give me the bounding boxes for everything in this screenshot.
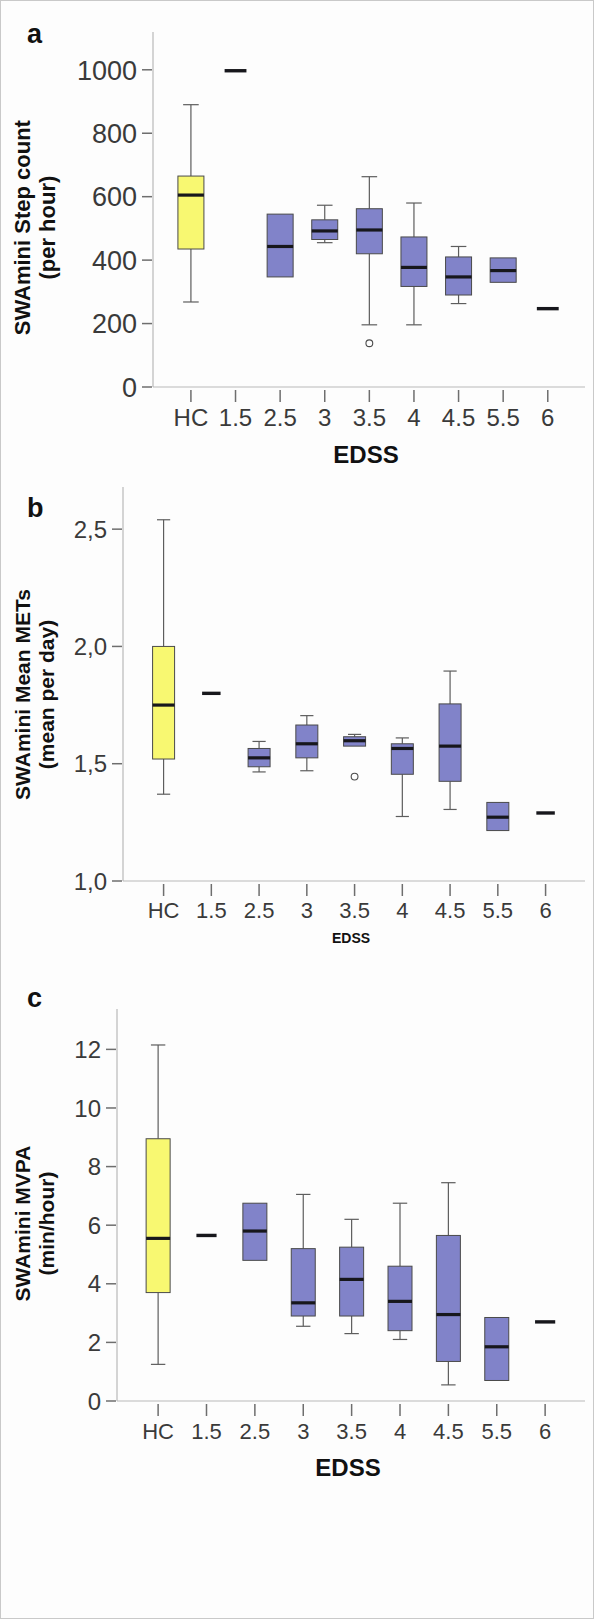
y-tick-label: 12 [74, 1036, 101, 1063]
y-tick-label: 10 [74, 1095, 101, 1122]
y-tick-label: 4 [88, 1270, 101, 1297]
y-tick-label: 1,5 [74, 750, 107, 777]
panel-c-y-axis-label: SWAmini MVPA(min/hour) [11, 1034, 58, 1412]
y-tick-label: 800 [92, 119, 137, 149]
y-axis-label-line-1: SWAmini MVPA [11, 1034, 35, 1412]
box-4-5 [439, 704, 461, 781]
panel-c: c SWAmini MVPA(min/hour) EDSS 024681012H… [1, 961, 594, 1619]
panel-b: b SWAmini Mean METs(mean per day) EDSS 1… [1, 471, 594, 961]
y-axis-label-line-2: (min/hour) [35, 1034, 59, 1412]
x-tick-label-HC: HC [142, 1419, 174, 1441]
y-tick-label: 600 [92, 182, 137, 212]
box-4 [388, 1266, 412, 1330]
y-tick-label: 8 [88, 1153, 101, 1180]
x-tick-label-6: 6 [539, 898, 551, 923]
x-tick-label-2-5: 2.5 [240, 1419, 271, 1441]
y-axis-label-line-1: SWAmini Mean METs [11, 504, 35, 884]
box-3 [296, 725, 318, 758]
box-4 [401, 237, 427, 286]
y-axis-label-line-2: (per hour) [35, 57, 60, 398]
y-axis-label-line-2: (mean per day) [35, 504, 59, 884]
y-tick-label: 1000 [77, 56, 137, 86]
box-5-5 [485, 1317, 509, 1380]
y-tick-label: 2,0 [74, 633, 107, 660]
x-tick-label-6: 6 [541, 404, 554, 431]
x-tick-label-2-5: 2.5 [263, 404, 296, 431]
x-tick-label-4: 4 [394, 1419, 406, 1441]
x-tick-label-3-5: 3.5 [336, 1419, 367, 1441]
outlier-point-3-5 [366, 340, 373, 347]
panel-c-x-axis-label: EDSS [117, 1454, 579, 1482]
panel-b-y-axis-label: SWAmini Mean METs(mean per day) [11, 504, 58, 884]
x-tick-label-5-5: 5.5 [486, 404, 519, 431]
x-tick-label-6: 6 [539, 1419, 551, 1441]
x-tick-label-3: 3 [301, 898, 313, 923]
y-tick-label: 6 [88, 1212, 101, 1239]
panel-a: a SWAmini Step count(per hour) EDSS 0200… [1, 1, 594, 471]
x-tick-label-1-5: 1.5 [191, 1419, 222, 1441]
x-tick-label-1-5: 1.5 [196, 898, 227, 923]
y-axis-label-line-1: SWAmini Step count [10, 57, 35, 398]
x-tick-label-3: 3 [318, 404, 331, 431]
x-tick-label-4: 4 [407, 404, 420, 431]
x-tick-label-4-5: 4.5 [433, 1419, 464, 1441]
box-3-5 [340, 1247, 364, 1316]
y-tick-label: 1,0 [74, 868, 107, 895]
panel-b-x-axis-label: EDSS [123, 930, 579, 946]
panel-a-y-axis-label: SWAmini Step count(per hour) [10, 57, 59, 398]
x-tick-label-3-5: 3.5 [339, 898, 370, 923]
x-tick-label-HC: HC [148, 898, 180, 923]
box-HC [146, 1139, 170, 1293]
box-HC [178, 176, 204, 249]
panel-a-x-axis-label: EDSS [153, 441, 579, 469]
box-3 [291, 1249, 315, 1316]
y-tick-label: 200 [92, 309, 137, 339]
x-tick-label-3-5: 3.5 [353, 404, 386, 431]
panel-c-letter: c [27, 983, 42, 1014]
panel-a-letter: a [27, 19, 42, 50]
y-tick-label: 0 [122, 373, 137, 403]
x-tick-label-1-5: 1.5 [219, 404, 252, 431]
x-tick-label-4-5: 4.5 [442, 404, 475, 431]
panel-c-boxplot: 024681012HC1.52.533.544.55.56 [1, 961, 594, 1441]
x-tick-label-3: 3 [297, 1419, 309, 1441]
x-tick-label-2-5: 2.5 [244, 898, 275, 923]
x-tick-label-HC: HC [174, 404, 209, 431]
y-tick-label: 400 [92, 246, 137, 276]
box-4-5 [436, 1235, 460, 1361]
y-tick-label: 0 [88, 1388, 101, 1415]
outlier-point-3-5 [351, 773, 358, 780]
panel-b-boxplot: 1,01,52,02,5HC1.52.533.544.55.56 [1, 471, 594, 961]
y-tick-label: 2,5 [74, 516, 107, 543]
panel-a-boxplot: 02004006008001000HC1.52.533.544.55.56 [1, 1, 594, 471]
y-tick-label: 2 [88, 1329, 101, 1356]
x-tick-label-5-5: 5.5 [481, 1419, 512, 1441]
x-tick-label-4-5: 4.5 [435, 898, 466, 923]
box-HC [153, 646, 175, 759]
x-tick-label-5-5: 5.5 [483, 898, 514, 923]
figure-container: a SWAmini Step count(per hour) EDSS 0200… [0, 0, 594, 1619]
x-tick-label-4: 4 [396, 898, 408, 923]
